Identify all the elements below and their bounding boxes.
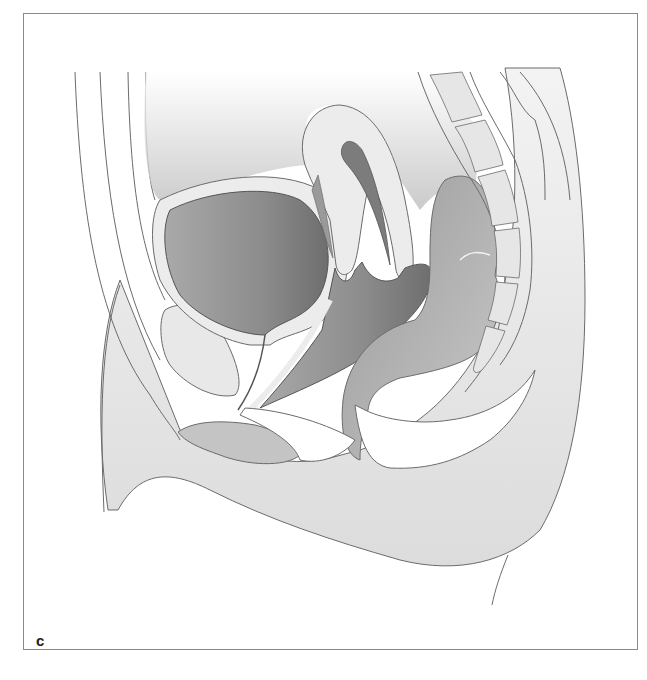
thigh-outline [492,555,508,605]
vertebra-4 [494,228,521,278]
panel-label: c [36,632,44,649]
pelvis-sagittal-illustration [0,0,647,680]
